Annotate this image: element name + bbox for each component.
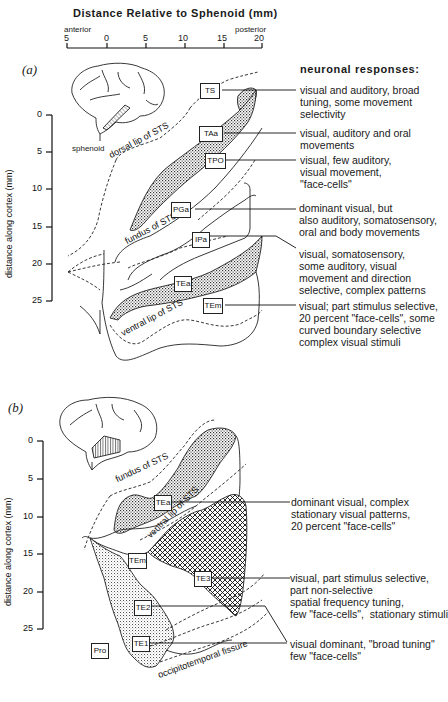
panel-a-label: (a) (22, 64, 37, 75)
area-box-ts: TS (200, 83, 220, 99)
area-box-ipa: IPa (192, 232, 210, 248)
panel-b-y-axis-label: distance along cortex (mm) (3, 497, 13, 606)
top-axis (67, 43, 262, 48)
panel-b-tick-5: 5 (13, 473, 33, 483)
top-tick-20: 20 (254, 33, 264, 44)
panel-a-tick-25: 25 (22, 295, 42, 305)
area-box-tem-a: TEm (203, 298, 223, 314)
panel-b-label: (b) (8, 402, 23, 413)
panel-a-tick-5: 5 (22, 146, 42, 156)
brain-inset-b (60, 397, 157, 470)
area-box-pga: PGa (171, 202, 191, 218)
top-axis-title: Distance Relative to Sphenoid (mm) (73, 8, 278, 19)
panel-a-tick-0: 0 (22, 109, 42, 119)
area-box-tea-a: TEa (174, 276, 192, 292)
area-box-taa: TAa (199, 126, 223, 142)
panel-a-y-axis (46, 115, 52, 301)
area-box-tea-b: TEa (154, 495, 172, 511)
panel-b-tick-20: 20 (13, 586, 33, 596)
response-tpo: visual, few auditory, visual movement, "… (300, 154, 391, 190)
area-box-tem-b: TEm (128, 553, 147, 569)
panel-b-tick-0: 0 (13, 435, 33, 445)
response-ts: visual and auditory, broad tuning, some … (300, 84, 419, 120)
panel-b-tick-10: 10 (13, 511, 33, 521)
panel-a-tick-20: 20 (22, 258, 42, 268)
response-te3: visual, part stimulus selective, part no… (290, 572, 448, 620)
panel-a-tick-10: 10 (22, 183, 42, 193)
area-box-pro: Pro (91, 643, 109, 659)
top-tick-10: 10 (178, 33, 188, 44)
top-tick-5-anterior: 5 (64, 33, 69, 44)
response-pga: dominant visual, but also auditory, soma… (299, 202, 437, 238)
response-tea-b: dominant visual, complex stationary visu… (291, 496, 410, 532)
area-box-te2: TE2 (134, 600, 152, 616)
panel-a-tick-15: 15 (22, 221, 42, 231)
response-ipa: visual, somatosensory, some auditory, vi… (299, 248, 426, 296)
top-tick-0: 0 (104, 33, 109, 44)
area-box-te3: TE3 (194, 571, 212, 587)
area-box-tpo: TPO (205, 153, 226, 169)
response-taa: visual, auditory and oral movements (300, 127, 411, 151)
sphenoid-label: sphenoid (72, 143, 104, 154)
panel-b-tick-15: 15 (13, 548, 33, 558)
response-tem: visual; part stimulus selective, 20 perc… (299, 300, 438, 348)
response-te1: visual dominant, "broad tuning" few "fac… (290, 638, 435, 662)
panel-a-y-axis-label: distance along cortex (mm) (4, 169, 14, 278)
top-tick-15: 15 (217, 33, 227, 44)
neuronal-responses-header: neuronal responses: (300, 64, 420, 75)
area-box-te1: TE1 (132, 636, 150, 652)
panel-b-tick-25: 25 (13, 623, 33, 633)
top-tick-5: 5 (143, 33, 148, 44)
panel-b-y-axis (37, 441, 43, 629)
